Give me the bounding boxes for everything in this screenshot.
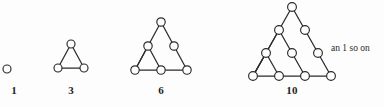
dot-node: [262, 49, 271, 58]
triangle-group-3: [54, 40, 88, 72]
dot-node: [249, 72, 258, 81]
dot-node: [301, 26, 310, 35]
count-label-1: 1: [11, 84, 17, 96]
dot-node: [157, 18, 165, 26]
dot-node: [131, 66, 139, 74]
dot-node: [67, 40, 75, 48]
dot-node: [157, 66, 165, 74]
dot-node: [170, 42, 178, 50]
dot-node: [3, 65, 11, 73]
count-label-10: 10: [286, 84, 297, 96]
dot-node: [80, 64, 88, 72]
count-label-6: 6: [158, 84, 164, 96]
dot-node: [275, 72, 284, 81]
dot-node: [144, 42, 152, 50]
count-label-3: 3: [68, 84, 74, 96]
dot-node: [183, 66, 191, 74]
dot-node: [314, 49, 323, 58]
dot-node: [288, 49, 297, 58]
dot-node: [327, 72, 336, 81]
dot-node: [54, 64, 62, 72]
and-so-on-note: an 1 so on: [331, 43, 370, 53]
dot-node: [288, 3, 297, 12]
triangular-numbers-figure: 13610 an 1 so on: [0, 0, 384, 107]
triangle-group-1: [3, 65, 11, 73]
triangle-group-10: [249, 3, 336, 81]
dot-node: [275, 26, 284, 35]
dot-node: [301, 72, 310, 81]
triangle-sequence-canvas: [0, 0, 384, 107]
triangle-edge: [292, 7, 331, 76]
triangle-group-6: [131, 18, 191, 74]
